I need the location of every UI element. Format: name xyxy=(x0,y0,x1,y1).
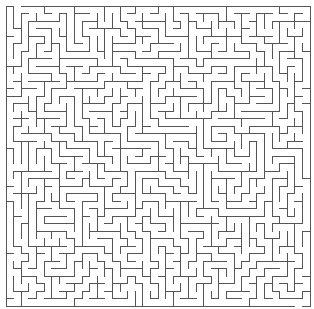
maze xyxy=(0,0,314,309)
maze-grid xyxy=(0,0,314,309)
maze-walls xyxy=(7,7,311,307)
